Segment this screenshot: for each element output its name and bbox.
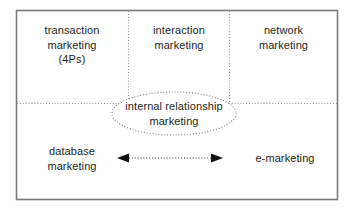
quadrant-label-interaction-marketing: interaction marketing (131, 23, 227, 52)
quadrant-label-transaction-marketing: transaction marketing (4Ps) (19, 23, 125, 67)
quadrant-label-database-marketing: database marketing (28, 144, 116, 173)
center-label-internal-relationship-marketing: internal relationship marketing (114, 99, 234, 129)
quadrant-label-e-marketing: e-marketing (243, 151, 327, 166)
diagram-canvas: transaction marketing (4Ps) interaction … (0, 0, 355, 212)
quadrant-label-network-marketing: network marketing (232, 23, 335, 52)
